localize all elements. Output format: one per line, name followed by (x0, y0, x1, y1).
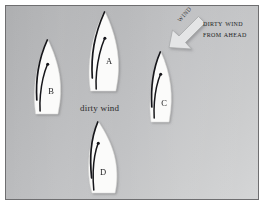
boat-d-mast-head (97, 142, 100, 145)
boat-c[interactable]: C (150, 51, 171, 122)
boat-d-label: D (100, 167, 106, 177)
boat-b-label: B (48, 86, 54, 96)
boat-d[interactable]: D (89, 121, 117, 193)
boat-b-hull (34, 39, 60, 114)
sailing-diagram-figure: A B C (0, 0, 264, 205)
dirty-wind-from-ahead-caption: Dirty wind from ahead (203, 18, 259, 40)
boat-a-mast-head (103, 37, 106, 40)
boat-b-mast-head (46, 63, 49, 66)
boat-c-hull (150, 51, 171, 122)
wind-arrow-shape (169, 17, 205, 50)
boat-a-label: A (106, 56, 113, 66)
from-ahead-line-2: from ahead (203, 29, 259, 40)
dirty-wind-caption: dirty wind (80, 104, 119, 113)
figure-frame: A B C (5, 5, 259, 200)
wind-arrow-icon (169, 17, 205, 50)
from-ahead-line-1: Dirty wind (203, 18, 259, 29)
boat-a[interactable]: A (89, 11, 118, 91)
boat-c-label: C (161, 98, 167, 108)
boat-c-mast-head (159, 73, 162, 76)
boat-b[interactable]: B (34, 39, 60, 114)
